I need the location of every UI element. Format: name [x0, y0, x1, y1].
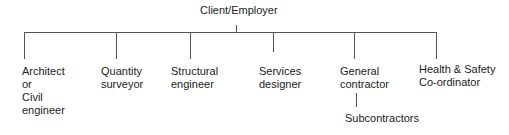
- subcontractor-connector: [356, 93, 357, 107]
- node-health-safety-coordinator: Health & Safety Co-ordinator: [419, 63, 495, 89]
- drop-quantity-surveyor: [116, 32, 117, 59]
- node-quantity-surveyor: Quantity surveyor: [101, 65, 143, 91]
- drop-general-contractor: [354, 32, 355, 59]
- drop-architect: [24, 32, 25, 59]
- node-architect-civil-engineer: Architect or Civil engineer: [22, 65, 65, 117]
- node-structural-engineer: Structural engineer: [171, 65, 218, 91]
- node-subcontractors: Subcontractors: [345, 112, 419, 125]
- node-general-contractor: General contractor: [340, 65, 389, 91]
- drop-structural-engineer: [190, 32, 191, 59]
- drop-services-designer: [273, 32, 274, 52]
- node-services-designer: Services designer: [259, 65, 301, 91]
- drop-health-safety: [436, 32, 437, 59]
- branch-bar: [24, 32, 437, 33]
- root-node-client-employer: Client/Employer: [200, 4, 278, 17]
